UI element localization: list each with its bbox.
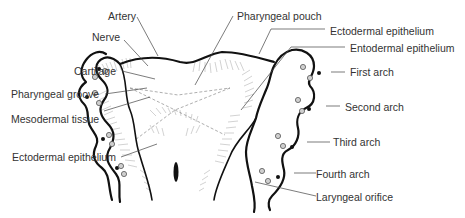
label-pharyngeal-pouch: Pharyngeal pouch xyxy=(237,10,322,22)
label-mesodermal-tissue: Mesodermal tissue xyxy=(11,113,99,125)
label-ectodermal-epithelium-right: Ectodermal epithelium xyxy=(330,25,434,37)
label-first-arch: First arch xyxy=(350,66,394,78)
dashed-line xyxy=(130,88,225,135)
right-arches-outline xyxy=(269,50,314,210)
pharynx-top-outline xyxy=(120,52,274,64)
dashed-line xyxy=(135,88,230,140)
label-third-arch: Third arch xyxy=(333,136,380,148)
label-artery: Artery xyxy=(108,10,136,22)
inner-wall-right xyxy=(214,118,256,200)
inner-wall-left xyxy=(120,64,152,200)
label-pharyngeal-groove: Pharyngeal groove xyxy=(11,88,99,100)
label-second-arch: Second arch xyxy=(345,101,404,113)
label-cartilage: Cartilage xyxy=(74,65,116,77)
pharyngeal-arches-diagram: Artery Nerve Cartilage Pharyngeal groove… xyxy=(0,0,465,218)
laryngeal-orifice-shape xyxy=(174,162,179,182)
label-entodermal-epithelium: Entodermal epithelium xyxy=(350,42,454,54)
label-nerve: Nerve xyxy=(92,31,120,43)
label-ectodermal-epithelium-left: Ectodermal epithelium xyxy=(12,151,116,163)
label-laryngeal-orifice: Laryngeal orifice xyxy=(316,191,393,203)
label-fourth-arch: Fourth arch xyxy=(316,168,370,180)
